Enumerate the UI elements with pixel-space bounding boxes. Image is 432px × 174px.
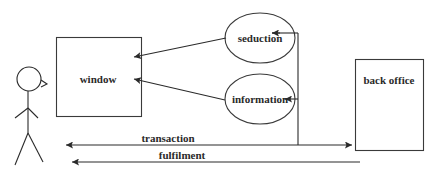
seduction-node: seduction [225, 13, 295, 63]
actor-left-leg [15, 133, 28, 165]
actor-nose [41, 80, 47, 87]
diagram-canvas: window seduction information back office… [0, 0, 432, 174]
information-label: information [232, 93, 288, 105]
fulfilment-label: fulfilment [159, 149, 206, 161]
window-label: window [80, 73, 117, 85]
actor-right-leg [28, 133, 43, 162]
actor-stick-figure-icon [15, 67, 47, 165]
actor-right-arm [28, 108, 38, 118]
window-node: window [57, 38, 142, 117]
actor-head [17, 67, 41, 91]
seduction-label: seduction [238, 32, 283, 44]
back-office-node: back office [356, 60, 424, 151]
seduction-to-window-arrow [134, 38, 226, 57]
information-to-window-arrow [134, 79, 225, 100]
transaction-label: transaction [141, 132, 194, 144]
actor-left-arm [15, 108, 28, 118]
back-office-label: back office [363, 74, 414, 86]
